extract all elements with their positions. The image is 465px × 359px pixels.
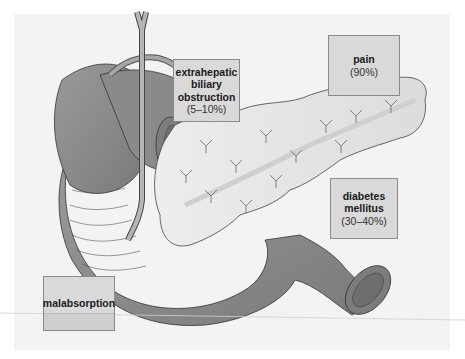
label-title-line: extrahepatic: [176, 66, 238, 79]
label-title-line: diabetes: [343, 190, 386, 203]
label-malabsorption: malabsorption: [43, 276, 115, 331]
label-percent: (5–10%): [187, 103, 227, 116]
label-extrahepatic-biliary-obstruction: extrahepatic biliary obstruction (5–10%): [173, 59, 240, 122]
label-title: pain: [353, 53, 375, 66]
label-title-line: obstruction: [178, 91, 236, 104]
label-shade: [44, 313, 114, 330]
label-title-line: biliary: [191, 78, 222, 91]
label-percent: (90%): [350, 66, 378, 79]
label-diabetes-mellitus: diabetes mellitus (30–40%): [330, 178, 398, 239]
label-title: malabsorption: [43, 297, 115, 310]
label-pain: pain (90%): [328, 35, 400, 96]
label-percent: (30–40%): [341, 215, 387, 228]
label-title-line: mellitus: [344, 202, 384, 215]
